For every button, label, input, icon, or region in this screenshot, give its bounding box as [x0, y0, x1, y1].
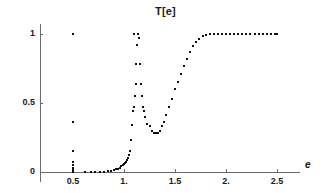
data-point [131, 124, 133, 126]
data-point [127, 157, 129, 159]
y-tick-label: 1 [2, 28, 35, 38]
data-point [110, 170, 112, 172]
x-axis-line [40, 172, 300, 173]
x-tick [277, 169, 278, 172]
data-point [192, 45, 194, 47]
y-tick [40, 34, 43, 35]
data-point [72, 167, 74, 169]
data-point [159, 130, 161, 132]
data-point [133, 33, 135, 35]
data-point [72, 121, 74, 123]
data-point [177, 81, 179, 83]
data-point [195, 41, 197, 43]
data-point [141, 95, 143, 97]
data-point [229, 33, 231, 35]
data-point [221, 33, 223, 35]
data-point [213, 33, 215, 35]
y-tick-label: 0 [2, 166, 35, 176]
data-point [165, 114, 167, 116]
data-point [132, 110, 134, 112]
data-point [90, 171, 92, 173]
data-point [245, 33, 247, 35]
data-point [94, 171, 96, 173]
data-point [72, 150, 74, 152]
x-tick-label: 1.5 [155, 176, 195, 186]
data-point [140, 83, 142, 85]
data-point [186, 58, 188, 60]
x-tick-label: 1. [104, 176, 144, 186]
data-point [103, 171, 105, 173]
data-point [129, 150, 131, 152]
data-point [205, 34, 207, 36]
data-point [72, 161, 74, 163]
data-point [143, 110, 145, 112]
data-point [142, 106, 144, 108]
data-point [72, 164, 74, 166]
data-point [161, 125, 163, 127]
y-tick [40, 103, 43, 104]
data-point [149, 125, 151, 127]
data-point [183, 65, 185, 67]
data-point [99, 171, 101, 173]
data-point [171, 98, 173, 100]
y-tick-label: 0.5 [2, 97, 35, 107]
data-point [157, 132, 159, 134]
data-point [135, 83, 137, 85]
data-point [125, 161, 127, 163]
chart-figure: T[e] 0.51.1.52.2.5 00.51 e [0, 0, 331, 193]
y-tick [40, 172, 43, 173]
data-point [136, 44, 138, 46]
data-point [137, 33, 139, 35]
data-point [266, 33, 268, 35]
x-tick-label: 2. [206, 176, 246, 186]
data-point [270, 33, 272, 35]
data-point [146, 123, 148, 125]
data-point [174, 88, 176, 90]
data-point [262, 33, 264, 35]
data-point [134, 95, 136, 97]
data-point [254, 33, 256, 35]
data-point [107, 170, 109, 172]
data-point [139, 63, 141, 65]
data-point [133, 106, 135, 108]
plot-area: 0.51.1.52.2.5 00.51 e [0, 0, 331, 193]
data-point [225, 33, 227, 35]
data-point [241, 33, 243, 35]
x-tick [226, 169, 227, 172]
data-point [130, 139, 132, 141]
data-point [217, 33, 219, 35]
data-point [233, 33, 235, 35]
data-point [209, 33, 211, 35]
data-point [128, 154, 130, 156]
data-point [135, 63, 137, 65]
data-point [237, 33, 239, 35]
data-point [84, 171, 86, 173]
data-point [198, 38, 200, 40]
x-axis-label: e [305, 159, 311, 170]
data-point [138, 37, 140, 39]
data-point [258, 33, 260, 35]
x-tick-label: 0.5 [53, 176, 93, 186]
x-tick [175, 169, 176, 172]
data-point [276, 33, 278, 35]
data-point [168, 106, 170, 108]
data-point [202, 35, 204, 37]
data-point [72, 33, 74, 35]
x-tick-label: 2.5 [257, 176, 297, 186]
data-point [249, 33, 251, 35]
data-point [144, 116, 146, 118]
x-tick [124, 169, 125, 172]
data-point [180, 73, 182, 75]
data-point [163, 121, 165, 123]
data-point [189, 51, 191, 53]
